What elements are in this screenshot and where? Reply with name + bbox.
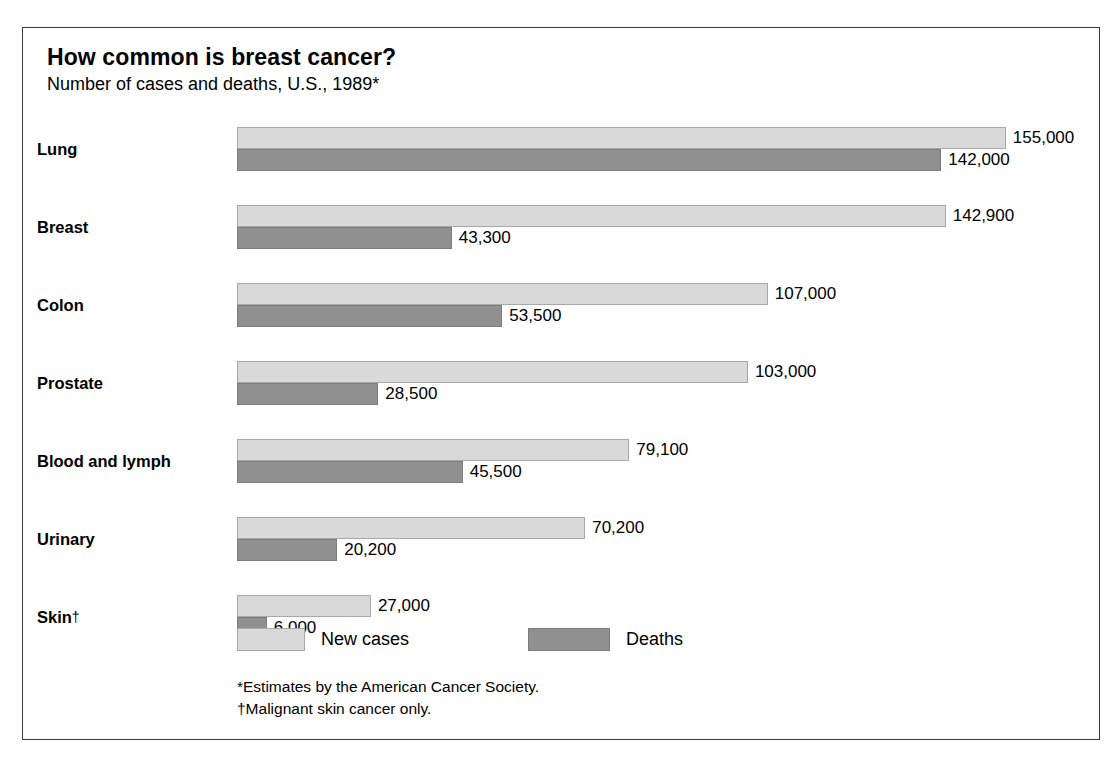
bar-value-deaths: 45,500 <box>463 461 522 483</box>
chart-row: Prostate103,00028,500 <box>23 361 1099 405</box>
category-label-text: Urinary <box>37 530 95 549</box>
bar-value-new-cases: 107,000 <box>768 283 836 305</box>
legend-item-new-cases: New cases <box>237 624 409 654</box>
chart-row: Lung155,000142,000 <box>23 127 1099 171</box>
legend-swatch-deaths <box>528 628 610 651</box>
bar-new-cases <box>237 205 946 227</box>
footnote-estimates: *Estimates by the American Cancer Societ… <box>237 676 539 698</box>
category-label: Urinary <box>37 517 95 561</box>
bar-value-new-cases: 70,200 <box>585 517 644 539</box>
bar-value-new-cases: 155,000 <box>1006 127 1074 149</box>
category-label: Lung <box>37 127 77 171</box>
category-label: Blood and lymph <box>37 439 171 483</box>
chart-row: Blood and lymph79,10045,500 <box>23 439 1099 483</box>
bar-new-cases <box>237 439 629 461</box>
category-label-text: Skin <box>37 608 72 627</box>
category-label-text: Prostate <box>37 374 103 393</box>
chart-footnotes: *Estimates by the American Cancer Societ… <box>237 676 539 721</box>
chart-row: Colon107,00053,500 <box>23 283 1099 327</box>
legend-item-deaths: Deaths <box>528 624 683 654</box>
category-label: Skin† <box>37 595 80 639</box>
legend-label-deaths: Deaths <box>626 629 683 650</box>
bar-value-deaths: 53,500 <box>502 305 561 327</box>
bar-deaths <box>237 539 337 561</box>
bar-new-cases <box>237 595 371 617</box>
bar-value-new-cases: 79,100 <box>629 439 688 461</box>
legend-swatch-new-cases <box>237 628 305 651</box>
bar-new-cases <box>237 127 1006 149</box>
bar-new-cases <box>237 361 748 383</box>
category-label-text: Colon <box>37 296 84 315</box>
category-label: Colon <box>37 283 84 327</box>
chart-frame: How common is breast cancer? Number of c… <box>22 27 1100 740</box>
bar-value-deaths: 28,500 <box>378 383 437 405</box>
bar-deaths <box>237 305 502 327</box>
bar-new-cases <box>237 283 768 305</box>
bar-deaths <box>237 149 941 171</box>
bar-new-cases <box>237 517 585 539</box>
category-label: Breast <box>37 205 88 249</box>
category-label: Prostate <box>37 361 103 405</box>
bar-value-deaths: 20,200 <box>337 539 396 561</box>
bar-deaths <box>237 383 378 405</box>
bar-deaths <box>237 227 452 249</box>
bar-value-deaths: 142,000 <box>941 149 1009 171</box>
category-label-text: Blood and lymph <box>37 452 171 471</box>
bar-value-new-cases: 27,000 <box>371 595 430 617</box>
bar-value-new-cases: 103,000 <box>748 361 816 383</box>
chart-row: Breast142,90043,300 <box>23 205 1099 249</box>
chart-row: Urinary70,20020,200 <box>23 517 1099 561</box>
bar-deaths <box>237 461 463 483</box>
category-label-text: Breast <box>37 218 88 237</box>
legend-label-new-cases: New cases <box>321 629 409 650</box>
category-label-text: Lung <box>37 140 77 159</box>
bar-value-new-cases: 142,900 <box>946 205 1014 227</box>
bar-value-deaths: 43,300 <box>452 227 511 249</box>
footnote-skin: †Malignant skin cancer only. <box>237 698 539 720</box>
